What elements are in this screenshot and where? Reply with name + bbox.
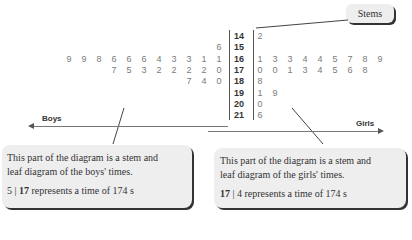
boys-leaf: 3	[184, 54, 194, 65]
girls-leaf: 3	[285, 54, 295, 65]
boys-leaf: 2	[169, 65, 179, 76]
girls-key-stem: 17	[220, 188, 230, 199]
boys-callout-line2: leaf diagram of the boys' times.	[7, 165, 192, 179]
boys-stem-divider	[229, 30, 230, 120]
girls-leaf: 3	[270, 54, 280, 65]
girls-key: 17 | 4 represents a time of 174 s	[220, 187, 406, 201]
boys-key: 5 | 17 represents a time of 174 s	[7, 184, 192, 198]
stem-value: 16	[234, 54, 252, 65]
girls-leaf: 1	[255, 88, 265, 99]
boys-leaf: 9	[64, 54, 74, 65]
stem-value: 19	[234, 88, 252, 99]
girls-leaf: 8	[360, 65, 370, 76]
girls-key-sep: |	[233, 188, 235, 199]
boys-key-leaf: 5	[7, 185, 12, 196]
girls-leaf: 6	[255, 110, 265, 121]
girls-leaf: 3	[300, 65, 310, 76]
boys-arrow-icon	[28, 123, 34, 129]
girls-axis-line	[208, 131, 380, 132]
girls-leaf: 0	[270, 65, 280, 76]
boys-leaf: 2	[184, 65, 194, 76]
girls-leaf: 4	[315, 54, 325, 65]
stem-girls-divider	[253, 30, 254, 120]
boys-callout-line1: This part of the diagram is a stem and	[7, 151, 192, 165]
stem-value: 14	[234, 31, 252, 42]
boys-leaf: 8	[94, 54, 104, 65]
girls-leaf: 5	[330, 54, 340, 65]
boys-leaf: 4	[154, 54, 164, 65]
girls-leaf: 9	[270, 88, 280, 99]
girls-leaf: 6	[345, 65, 355, 76]
boys-leaf: 2	[199, 65, 209, 76]
boys-leaf: 9	[79, 54, 89, 65]
boys-callout: This part of the diagram is a stem and l…	[2, 145, 192, 208]
boys-leaf: 4	[199, 76, 209, 87]
boys-leaf: 6	[214, 42, 224, 53]
girls-key-leaf: 4	[237, 188, 242, 199]
girls-leaf: 1	[255, 54, 265, 65]
boys-axis-line	[32, 126, 228, 127]
stem-value: 17	[234, 65, 252, 76]
boys-leaf: 1	[199, 54, 209, 65]
boys-key-text: represents a time of 174 s	[32, 185, 134, 196]
girls-arrow-icon	[378, 128, 384, 134]
girls-leaf: 0	[255, 99, 265, 110]
boys-leaf: 2	[154, 65, 164, 76]
boys-leaf: 3	[139, 65, 149, 76]
girls-leaf: 9	[375, 54, 385, 65]
boys-leaf: 7	[109, 65, 119, 76]
girls-callout-line1: This part of the diagram is a stem and	[220, 154, 406, 168]
girls-leaf: 8	[255, 76, 265, 87]
boys-leaf: 0	[214, 65, 224, 76]
girls-leaf: 4	[315, 65, 325, 76]
stem-value: 15	[234, 42, 252, 53]
boys-leaf: 0	[214, 76, 224, 87]
girls-leaf: 7	[345, 54, 355, 65]
girls-leaf: 5	[330, 65, 340, 76]
stem-value: 20	[234, 99, 252, 110]
girls-key-text: represents a time of 174 s	[245, 188, 347, 199]
boys-leaf: 6	[109, 54, 119, 65]
girls-callout: This part of the diagram is a stem and l…	[214, 148, 406, 208]
girls-axis-label: Girls	[356, 119, 374, 128]
girls-leaf: 8	[360, 54, 370, 65]
boys-key-stem: 17	[19, 185, 29, 196]
girls-leaf: 2	[255, 31, 265, 42]
boys-leaf: 1	[214, 54, 224, 65]
boys-leaf: 3	[169, 54, 179, 65]
girls-pointer-line	[292, 108, 323, 144]
girls-leaf: 4	[300, 54, 310, 65]
boys-key-sep: |	[15, 185, 17, 196]
boys-leaf: 5	[124, 65, 134, 76]
girls-leaf: 1	[285, 65, 295, 76]
boys-leaf: 7	[184, 76, 194, 87]
boys-leaf: 6	[139, 54, 149, 65]
boys-axis-label: Boys	[42, 114, 62, 123]
stem-value: 21	[234, 110, 252, 121]
stems-pointer-line	[256, 20, 348, 28]
stem-value: 18	[234, 76, 252, 87]
girls-leaf: 0	[255, 65, 265, 76]
girls-callout-line2: leaf diagram of the girls' times.	[220, 168, 406, 182]
boys-leaf: 6	[124, 54, 134, 65]
